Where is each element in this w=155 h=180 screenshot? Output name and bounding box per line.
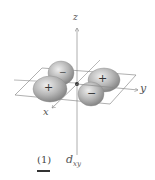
caption-label-main: d [66,153,73,166]
x-axis-label: x [43,106,49,117]
z-axis-label: z [73,12,78,22]
sign-right-lobe: + [98,72,107,85]
sign-center: − [59,67,67,77]
caption-number: (1) [37,154,51,165]
sign-left-lobe: + [44,81,53,94]
y-axis-label: y [140,82,146,95]
caption-orbital-label: dxy [66,153,81,168]
sign-lower-right-lobe: − [87,87,96,100]
caption-label-sub: xy [73,160,81,168]
caption-underline [37,170,50,172]
